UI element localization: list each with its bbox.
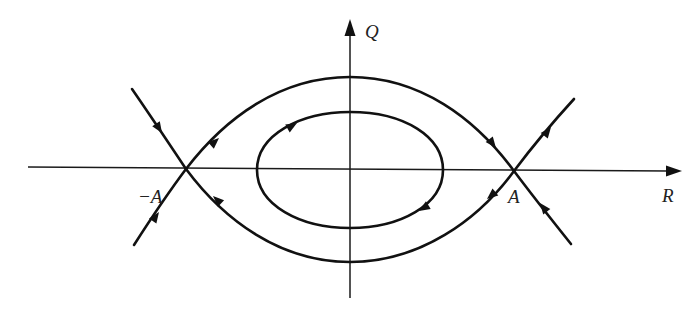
q-axis-label: Q	[365, 22, 379, 41]
left-saddle-label: −A	[138, 187, 162, 206]
phase-portrait-figure: Q R −A A	[0, 0, 685, 312]
q-axis	[345, 19, 356, 298]
r-axis-label: R	[662, 186, 674, 205]
phase-portrait-canvas	[0, 0, 685, 312]
left-saddle-branch-incoming-from-bottom	[134, 169, 186, 245]
flow-arrow-icon	[484, 188, 498, 202]
q-axis-arrow-icon	[345, 19, 356, 36]
r-axis-line	[28, 167, 668, 171]
r-axis	[28, 166, 682, 177]
r-axis-arrow-icon	[666, 166, 682, 177]
right-saddle-label: A	[508, 187, 520, 206]
